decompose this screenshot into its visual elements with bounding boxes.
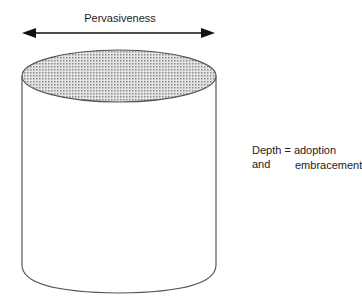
arrow-head-right <box>201 28 215 38</box>
arrow-head-left <box>22 28 36 38</box>
pervasiveness-arrow <box>22 28 215 38</box>
depth-label-line2: embracement <box>295 158 362 172</box>
cylinder-top <box>22 50 216 102</box>
cylinder-body <box>22 76 216 293</box>
pervasiveness-label: Pervasiveness <box>0 11 240 25</box>
